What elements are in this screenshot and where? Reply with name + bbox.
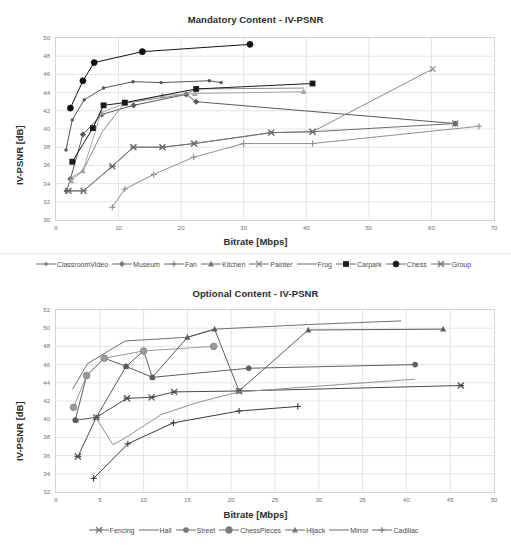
plus-marker-icon bbox=[164, 259, 184, 269]
none-marker-icon bbox=[139, 525, 159, 535]
chart1-y-axis-label: IV-PSNR [dB] bbox=[14, 125, 25, 185]
legend-item[interactable]: Street bbox=[176, 525, 220, 535]
y-tick-label: 34 bbox=[28, 181, 50, 187]
y-tick-label: 30 bbox=[28, 217, 50, 223]
chart2-legend: FencingHallStreetChessPiecesHijackMirror… bbox=[0, 525, 511, 535]
y-tick-label: 46 bbox=[28, 362, 50, 368]
chart1-title: Mandatory Content - IV-PSNR bbox=[0, 14, 511, 25]
dot-marker-icon bbox=[176, 525, 196, 535]
legend-item[interactable]: ClassroomVideo bbox=[36, 259, 112, 269]
x-tick-label: 10 bbox=[132, 497, 156, 503]
y-tick-label: 32 bbox=[28, 199, 50, 205]
triangle-marker-icon bbox=[201, 259, 221, 269]
legend-item[interactable]: Fencing bbox=[89, 525, 139, 535]
legend-item[interactable]: Fan bbox=[164, 259, 201, 269]
y-tick-label: 42 bbox=[28, 398, 50, 404]
legend-item-label: Fencing bbox=[110, 527, 135, 534]
y-tick-label: 44 bbox=[28, 90, 50, 96]
star-x-marker-icon bbox=[89, 525, 109, 535]
chart-mandatory-content: Mandatory Content - IV-PSNR IV-PSNR [dB]… bbox=[0, 0, 511, 279]
legend-item[interactable]: Kitchen bbox=[201, 259, 249, 269]
chart2-plot-area bbox=[55, 309, 495, 493]
legend-item-label: Hijack bbox=[306, 527, 325, 534]
chart2-title: Optional Content - IV-PSNR bbox=[0, 288, 511, 299]
y-tick-label: 36 bbox=[28, 453, 50, 459]
chart1-legend-divider bbox=[0, 253, 511, 254]
legend-item[interactable]: Group bbox=[431, 259, 475, 269]
x-tick-label: 0 bbox=[44, 225, 68, 231]
none-marker-icon bbox=[297, 259, 317, 269]
x-tick-label: 35 bbox=[351, 497, 375, 503]
triangle-marker-icon bbox=[285, 525, 305, 535]
y-tick-label: 52 bbox=[28, 307, 50, 313]
x-tick-label: 40 bbox=[394, 497, 418, 503]
y-tick-label: 36 bbox=[28, 162, 50, 168]
y-tick-label: 50 bbox=[28, 325, 50, 331]
x-tick-label: 15 bbox=[175, 497, 199, 503]
legend-item-label: ChessPieces bbox=[240, 527, 281, 534]
y-tick-label: 48 bbox=[28, 53, 50, 59]
x-tick-label: 25 bbox=[263, 497, 287, 503]
x-tick-label: 50 bbox=[482, 497, 506, 503]
x-marker-icon bbox=[249, 259, 269, 269]
y-tick-label: 50 bbox=[28, 35, 50, 41]
square-marker-icon bbox=[336, 259, 356, 269]
x-tick-label: 50 bbox=[357, 225, 381, 231]
line-dot-marker-icon bbox=[36, 259, 56, 269]
legend-item[interactable]: Hijack bbox=[285, 525, 329, 535]
legend-item-label: Group bbox=[452, 261, 471, 268]
x-tick-label: 70 bbox=[482, 225, 506, 231]
legend-item-label: Carpark bbox=[357, 261, 382, 268]
legend-item-label: Kitchen bbox=[222, 261, 245, 268]
y-tick-label: 32 bbox=[28, 489, 50, 495]
y-tick-label: 42 bbox=[28, 108, 50, 114]
star-x-marker-icon bbox=[431, 259, 451, 269]
legend-item-label: Mirror bbox=[350, 527, 368, 534]
x-tick-label: 40 bbox=[294, 225, 318, 231]
x-tick-label: 30 bbox=[307, 497, 331, 503]
legend-item-label: Fan bbox=[185, 261, 197, 268]
legend-item[interactable]: Mirror bbox=[329, 525, 372, 535]
y-tick-label: 48 bbox=[28, 343, 50, 349]
x-tick-label: 5 bbox=[88, 497, 112, 503]
x-tick-label: 60 bbox=[419, 225, 443, 231]
none-marker-icon bbox=[329, 525, 349, 535]
legend-item[interactable]: Museum bbox=[112, 259, 164, 269]
y-tick-label: 44 bbox=[28, 380, 50, 386]
x-tick-label: 30 bbox=[232, 225, 256, 231]
x-tick-label: 0 bbox=[44, 497, 68, 503]
legend-item-label: Cadillac bbox=[393, 527, 418, 534]
legend-item[interactable]: Frog bbox=[297, 259, 336, 269]
legend-item-label: Hall bbox=[160, 527, 172, 534]
x-tick-label: 20 bbox=[169, 225, 193, 231]
legend-item[interactable]: Chess bbox=[386, 259, 431, 269]
x-tick-label: 20 bbox=[219, 497, 243, 503]
legend-item[interactable]: Painter bbox=[249, 259, 296, 269]
legend-item-label: ClassroomVideo bbox=[57, 261, 108, 268]
circle-marker-icon bbox=[386, 259, 406, 269]
y-tick-label: 40 bbox=[28, 416, 50, 422]
x-tick-label: 45 bbox=[438, 497, 462, 503]
legend-item-label: Chess bbox=[407, 261, 427, 268]
chart1-legend: ClassroomVideoMuseumFanKitchenPainterFro… bbox=[0, 259, 511, 269]
diamond-marker-icon bbox=[112, 259, 132, 269]
legend-item[interactable]: Hall bbox=[139, 525, 176, 535]
plus-line-marker-icon bbox=[372, 525, 392, 535]
legend-item[interactable]: Carpark bbox=[336, 259, 386, 269]
chart1-x-axis-label: Bitrate [Mbps] bbox=[0, 236, 511, 247]
legend-item-label: Frog bbox=[318, 261, 332, 268]
legend-item-label: Street bbox=[197, 527, 216, 534]
chart2-y-axis-label: IV-PSNR [dB] bbox=[14, 401, 25, 461]
legend-item[interactable]: Cadillac bbox=[372, 525, 422, 535]
legend-item[interactable]: ChessPieces bbox=[219, 525, 285, 535]
chart1-plot-area bbox=[55, 37, 495, 221]
y-tick-label: 34 bbox=[28, 471, 50, 477]
y-tick-label: 40 bbox=[28, 126, 50, 132]
legend-item-label: Painter bbox=[270, 261, 292, 268]
legend-item-label: Museum bbox=[133, 261, 160, 268]
y-tick-label: 46 bbox=[28, 71, 50, 77]
y-tick-label: 38 bbox=[28, 144, 50, 150]
y-tick-label: 38 bbox=[28, 434, 50, 440]
chart2-x-axis-label: Bitrate [Mbps] bbox=[0, 509, 511, 520]
x-tick-label: 10 bbox=[107, 225, 131, 231]
